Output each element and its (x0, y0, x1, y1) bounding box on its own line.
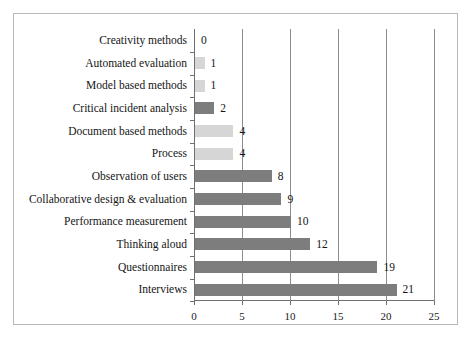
value-label: 19 (383, 256, 395, 279)
value-label: 10 (297, 210, 309, 233)
category-label: Observation of users (92, 165, 187, 188)
bar (195, 148, 233, 160)
bar-row: Critical incident analysis2 (194, 97, 434, 120)
value-label: 12 (316, 233, 328, 256)
bar (195, 238, 310, 250)
value-label: 21 (403, 278, 415, 301)
value-label: 8 (278, 165, 284, 188)
bar (195, 102, 214, 114)
category-label: Performance measurement (64, 210, 187, 233)
category-label: Document based methods (68, 120, 187, 143)
category-label: Critical incident analysis (73, 97, 187, 120)
bar-row: Questionnaires19 (194, 256, 434, 279)
gridline-25 (434, 29, 435, 301)
bar-row: Model based methods1 (194, 74, 434, 97)
category-label: Automated evaluation (85, 52, 187, 75)
value-label: 2 (220, 97, 226, 120)
tick-mark-20 (386, 301, 387, 305)
bar-row: Automated evaluation1 (194, 52, 434, 75)
x-tick-label: 5 (239, 310, 245, 322)
value-label: 4 (239, 142, 245, 165)
bar-row: Thinking aloud12 (194, 233, 434, 256)
category-label: Creativity methods (99, 29, 187, 52)
tick-mark-15 (338, 301, 339, 305)
bar (195, 261, 377, 273)
category-label: Model based methods (86, 74, 187, 97)
tick-mark-0 (194, 301, 195, 305)
x-tick-label: 15 (333, 310, 344, 322)
category-label: Interviews (138, 278, 187, 301)
category-label: Questionnaires (118, 256, 187, 279)
value-label: 0 (201, 29, 207, 52)
value-label: 9 (287, 188, 293, 211)
bar (195, 170, 272, 182)
x-tick-label: 20 (381, 310, 392, 322)
bar-row: Interviews21 (194, 278, 434, 301)
bar-row: Performance measurement10 (194, 210, 434, 233)
bar-row: Document based methods4 (194, 120, 434, 143)
chart-container: 0510152025 Creativity methods0Automated … (13, 13, 458, 325)
bar (195, 284, 397, 296)
bar (195, 80, 205, 92)
bar-row: Observation of users8 (194, 165, 434, 188)
tick-mark-10 (290, 301, 291, 305)
x-tick-label: 0 (191, 310, 197, 322)
bar-row: Creativity methods0 (194, 29, 434, 52)
value-label: 4 (239, 120, 245, 143)
category-label: Process (152, 142, 187, 165)
bar (195, 193, 281, 205)
value-label: 1 (211, 52, 217, 75)
bar (195, 216, 291, 228)
tick-mark-5 (242, 301, 243, 305)
bar (195, 125, 233, 137)
x-tick-label: 10 (285, 310, 296, 322)
bar-row: Process4 (194, 142, 434, 165)
bar-row: Collaborative design & evaluation9 (194, 188, 434, 211)
y-tick-mark (190, 301, 194, 302)
category-label: Thinking aloud (116, 233, 187, 256)
value-label: 1 (211, 74, 217, 97)
plot-area: 0510152025 Creativity methods0Automated … (194, 29, 434, 301)
category-label: Collaborative design & evaluation (29, 188, 187, 211)
bar (195, 57, 205, 69)
x-tick-label: 25 (429, 310, 440, 322)
tick-mark-25 (434, 301, 435, 305)
